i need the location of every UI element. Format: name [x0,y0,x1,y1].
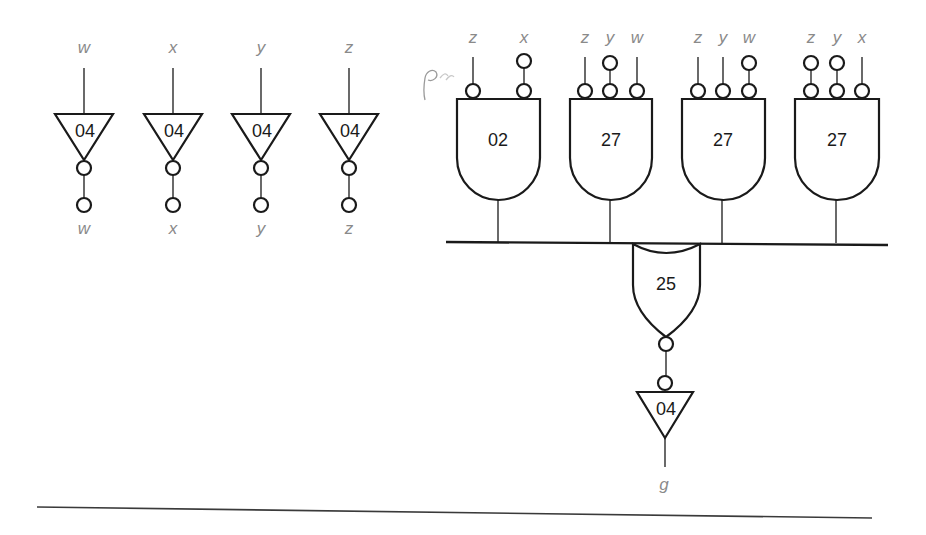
chip-number: 27 [713,130,733,150]
negation-bubble [659,337,673,351]
input-label-w: w [78,38,92,57]
circuit-diagram: w 04 w x 04 x y 04 y z 04 [0,0,926,535]
input-label: x [857,28,867,47]
input-label: z [693,28,703,47]
output-inverter: 04 g [637,376,693,494]
and-gate-27b: z y w 27 [682,28,765,243]
output-label-x: x [168,219,178,238]
inverter-y: y 04 y [232,38,290,238]
negation-bubble [254,198,268,212]
or-gate-25: 25 [633,244,700,376]
chip-number: 04 [75,121,95,141]
input-label: w [743,28,757,47]
bus-line [446,242,888,245]
inverter-x: x 04 x [144,38,202,238]
input-label: w [631,28,645,47]
negation-bubble [466,84,480,98]
negation-bubble [578,84,592,98]
negation-bubble [658,376,672,390]
negation-bubble [77,198,91,212]
negation-bubble [804,56,818,70]
input-label-y: y [256,38,267,57]
negation-bubble [742,56,756,70]
pencil-scribble [424,70,454,100]
output-label-g: g [659,475,669,494]
input-label: z [580,28,590,47]
negation-bubble [603,84,617,98]
page-divider [37,507,872,518]
negation-bubble [517,54,531,68]
input-label: z [468,28,478,47]
chip-number: 04 [340,121,360,141]
negation-bubble [166,198,180,212]
negation-bubble [342,198,356,212]
negation-bubble [254,161,268,175]
negation-bubble [166,161,180,175]
and-gate-27a: z y w 27 [570,28,652,243]
negation-bubble [517,84,531,98]
chip-number: 04 [656,399,676,419]
chip-number: 27 [601,130,621,150]
input-label: x [519,28,529,47]
chip-number: 27 [827,130,847,150]
and-gate-27c: z y x 27 [795,28,879,243]
input-label: y [605,28,616,47]
chip-number: 02 [488,130,508,150]
negation-bubble [603,56,617,70]
input-label-z: z [344,38,354,57]
input-label: z [806,28,816,47]
negation-bubble [691,84,705,98]
chip-number: 04 [252,121,272,141]
chip-number: 25 [656,274,676,294]
output-label-z: z [344,219,354,238]
output-label-y: y [256,219,267,238]
negation-bubble [830,84,844,98]
input-label-x: x [168,38,178,57]
input-label: y [718,28,729,47]
negation-bubble [716,84,730,98]
negation-bubble [830,56,844,70]
output-label-w: w [78,219,92,238]
input-label: y [832,28,843,47]
negation-bubble [804,84,818,98]
negation-bubble [742,84,756,98]
chip-number: 04 [164,121,184,141]
negation-bubble [630,84,644,98]
negation-bubble [342,161,356,175]
inverter-w: w 04 w [55,38,113,238]
and-gate-02: z x 02 [457,28,540,243]
negation-bubble [77,161,91,175]
negation-bubble [855,84,869,98]
inverter-z: z 04 z [320,38,378,238]
